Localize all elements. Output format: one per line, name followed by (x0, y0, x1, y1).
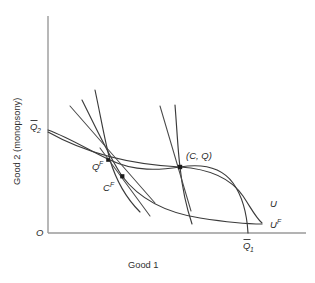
point-label-C-Q: (C, Q) (186, 150, 212, 161)
x-endpoint-label-group: Q 1 (243, 240, 254, 254)
marker-C-F (120, 174, 124, 178)
point-label-C-F-superscript: F (110, 181, 115, 188)
marker-C-Q (178, 165, 182, 169)
x-endpoint-subscript: 1 (250, 246, 254, 253)
y-endpoint-label-group: Q 2 (30, 121, 41, 135)
marker-Q-F (106, 158, 110, 162)
curve-U-F (82, 100, 262, 224)
curve-label-U: U (270, 198, 277, 209)
point-label-C-F-group: C F (103, 181, 115, 193)
point-label-Q-F-superscript: F (99, 160, 104, 167)
curve-label-U-F-group: U F (270, 218, 282, 230)
offer-curve (48, 130, 248, 233)
point-label-Q-F-group: Q F (92, 160, 104, 172)
curve-U (48, 132, 262, 223)
point-label-C-F: C (103, 182, 110, 193)
y-axis-title: Good 2 (monopsony) (12, 98, 22, 185)
figure-container: O Q 2 Q 1 Q F C F (C, Q) U U F (0, 0, 315, 283)
economics-diagram-svg: O Q 2 Q 1 Q F C F (C, Q) U U F (0, 0, 315, 283)
curve-label-U-F: U (270, 219, 277, 230)
x-axis-title: Good 1 (128, 260, 159, 270)
tangent-line-Q-F-C-F (70, 106, 155, 203)
curve-label-U-F-superscript: F (277, 218, 282, 225)
origin-label: O (36, 227, 44, 238)
y-endpoint-subscript: 2 (36, 127, 41, 134)
